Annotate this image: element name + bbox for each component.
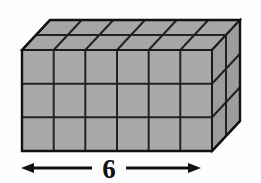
cube-prism-svg: 6 [0,0,261,183]
figure-container: 6 [0,0,261,183]
dimension-value-label: 6 [102,154,116,183]
front-face-group [22,50,212,151]
length-dimension-annotation: 6 [21,154,201,183]
arrowhead-right-icon [188,163,201,173]
top-face-group [22,20,240,50]
arrowhead-left-icon [21,163,34,173]
